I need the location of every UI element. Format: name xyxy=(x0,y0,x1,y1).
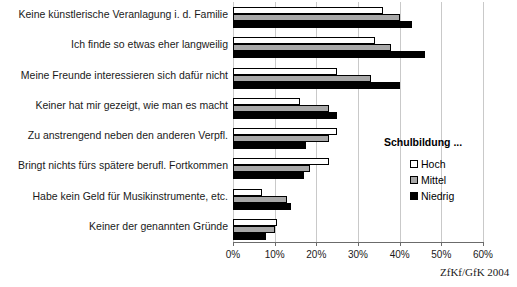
x-tick-label: 50% xyxy=(421,249,461,260)
bar-hoch xyxy=(233,37,375,44)
x-tick-label: 40% xyxy=(380,249,420,260)
bar-group xyxy=(233,32,483,62)
legend-item-niedrig: Niedrig xyxy=(410,190,514,202)
bar-niedrig xyxy=(233,21,412,28)
bar-niedrig xyxy=(233,112,337,119)
white-square-icon xyxy=(410,160,418,168)
legend: Schulbildung ... HochMittelNiedrig xyxy=(384,136,514,206)
tick-mark-40 xyxy=(400,242,401,246)
tick-mark-20 xyxy=(316,242,317,246)
legend-item-label: Hoch xyxy=(421,158,446,170)
bar-chart: Keine künstlerische Veranlagung i. d. Fa… xyxy=(0,0,517,287)
source-credit: ZfKf/GfK 2004 xyxy=(440,266,509,278)
tick-mark-30 xyxy=(358,242,359,246)
tick-mark-60 xyxy=(483,242,484,246)
bar-group xyxy=(233,93,483,123)
bar-hoch xyxy=(233,128,337,135)
bar-hoch xyxy=(233,68,337,75)
legend-item-mittel: Mittel xyxy=(410,174,514,186)
legend-item-hoch: Hoch xyxy=(410,158,514,170)
bar-niedrig xyxy=(233,233,266,240)
x-tick-label: 10% xyxy=(255,249,295,260)
category-axis-labels: Keine künstlerische Veranlagung i. d. Fa… xyxy=(0,0,228,242)
bar-niedrig xyxy=(233,203,291,210)
gridline-60 xyxy=(483,2,484,242)
tick-mark-10 xyxy=(275,242,276,246)
bar-mittel xyxy=(233,165,310,172)
bar-mittel xyxy=(233,135,329,142)
bar-mittel xyxy=(233,14,400,21)
bar-hoch xyxy=(233,98,300,105)
bar-hoch xyxy=(233,7,383,14)
category-label: Zu anstrengend neben den anderen Verpfl. xyxy=(3,129,228,141)
bar-mittel xyxy=(233,196,287,203)
bar-group xyxy=(233,214,483,244)
bar-niedrig xyxy=(233,172,304,179)
bar-niedrig xyxy=(233,142,306,149)
category-label: Keiner hat mir gezeigt, wie man es macht xyxy=(3,99,228,111)
bar-mittel xyxy=(233,105,329,112)
bar-mittel xyxy=(233,44,391,51)
bar-hoch xyxy=(233,158,329,165)
x-tick-label: 30% xyxy=(338,249,378,260)
bar-mittel xyxy=(233,226,275,233)
bar-mittel xyxy=(233,75,371,82)
tick-mark-0 xyxy=(233,242,234,246)
bar-niedrig xyxy=(233,51,425,58)
category-label: Habe kein Geld für Musikinstrumente, etc… xyxy=(3,190,228,202)
category-label: Keiner der genannten Gründe xyxy=(3,220,228,232)
x-tick-label: 0% xyxy=(213,249,253,260)
bar-group xyxy=(233,2,483,32)
bar-hoch xyxy=(233,219,277,226)
tick-mark-50 xyxy=(441,242,442,246)
legend-title: Schulbildung ... xyxy=(384,136,514,148)
bar-niedrig xyxy=(233,82,400,89)
x-tick-label: 20% xyxy=(296,249,336,260)
black-square-icon xyxy=(410,192,418,200)
category-label: Ich finde so etwas eher langweilig xyxy=(3,38,228,50)
legend-items: HochMittelNiedrig xyxy=(384,158,514,202)
gray-square-icon xyxy=(410,176,418,184)
bar-hoch xyxy=(233,189,262,196)
x-tick-label: 60% xyxy=(463,249,503,260)
bar-group xyxy=(233,63,483,93)
legend-item-label: Niedrig xyxy=(421,190,454,202)
category-label: Bringt nichts fürs spätere berufl. Fortk… xyxy=(3,159,228,171)
legend-item-label: Mittel xyxy=(421,174,446,186)
category-label: Meine Freunde interessieren sich dafür n… xyxy=(3,69,228,81)
category-label: Keine künstlerische Veranlagung i. d. Fa… xyxy=(3,8,228,20)
plot-bars xyxy=(233,2,483,242)
